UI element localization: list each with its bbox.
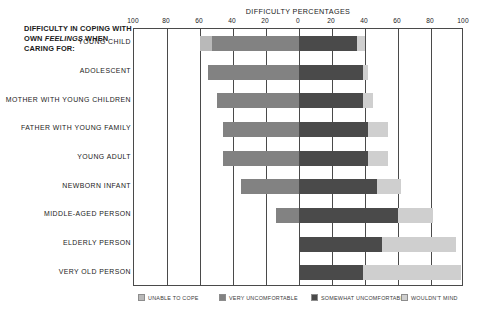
segment-somewhat-uncomfortable [299, 93, 363, 108]
segment-wouldnt-mind [363, 65, 368, 80]
x-axis-tick-2: 60 [195, 17, 203, 24]
segment-somewhat-uncomfortable [299, 179, 377, 194]
legend-swatch-icon [219, 294, 226, 301]
legend-item-2: SOMEWHAT UNCOMFORTABLE [311, 294, 408, 301]
legend-item-1: VERY UNCOMFORTABLE [219, 294, 298, 301]
bar-row [134, 179, 464, 194]
legend-label: VERY UNCOMFORTABLE [229, 295, 298, 301]
segment-very-uncomfortable [223, 151, 299, 166]
category-label-3: FATHER WITH YOUNG FAMILY [0, 124, 131, 131]
segment-wouldnt-mind [363, 93, 373, 108]
x-axis-tick-4: 20 [261, 17, 269, 24]
x-axis-tick-6: 20 [327, 17, 335, 24]
segment-very-uncomfortable [223, 122, 299, 137]
segment-somewhat-uncomfortable [299, 208, 398, 223]
bar-row [134, 237, 464, 252]
chart-x-axis-title: DIFFICULTY PERCENTAGES [133, 7, 463, 16]
legend-item-0: UNABLE TO COPE [138, 294, 199, 301]
category-label-0: YOUNG CHILD [0, 38, 131, 45]
bar-row [134, 265, 464, 280]
segment-somewhat-uncomfortable [299, 237, 382, 252]
segment-somewhat-uncomfortable [299, 36, 357, 51]
chart-container: DIFFICULTY IN COPING WITH OWN FEELINGS W… [0, 0, 483, 314]
category-label-7: ELDERLY PERSON [0, 239, 131, 246]
segment-wouldnt-mind [357, 36, 365, 51]
segment-very-uncomfortable [241, 179, 299, 194]
segment-wouldnt-mind [377, 179, 402, 194]
bar-row [134, 36, 464, 51]
x-axis-tick-0: 100 [127, 17, 139, 24]
segment-very-uncomfortable [212, 36, 299, 51]
segment-very-uncomfortable [208, 65, 299, 80]
x-axis-tick-9: 80 [426, 17, 434, 24]
category-label-2: MOTHER WITH YOUNG CHILDREN [0, 96, 131, 103]
legend-label: UNABLE TO COPE [148, 295, 199, 301]
segment-very-uncomfortable [276, 208, 299, 223]
segment-unable-to-cope [200, 36, 212, 51]
category-label-5: NEWBORN INFANT [0, 182, 131, 189]
category-label-1: ADOLESCENT [0, 67, 131, 74]
bar-row [134, 93, 464, 108]
x-axis-tick-1: 80 [162, 17, 170, 24]
x-axis-tick-labels: 10080604020020406080100 [0, 17, 483, 27]
legend-swatch-icon [311, 294, 318, 301]
segment-wouldnt-mind [382, 237, 456, 252]
x-axis-tick-8: 60 [393, 17, 401, 24]
bar-row [134, 65, 464, 80]
x-axis-tick-5: 0 [296, 17, 300, 24]
segment-very-uncomfortable [217, 93, 300, 108]
x-axis-tick-3: 40 [228, 17, 236, 24]
legend-label: WOULDN'T MIND [411, 295, 458, 301]
category-label-6: MIDDLE-AGED PERSON [0, 210, 131, 217]
category-label-4: YOUNG ADULT [0, 153, 131, 160]
segment-somewhat-uncomfortable [299, 151, 368, 166]
segment-wouldnt-mind [398, 208, 433, 223]
legend-item-3: WOULDN'T MIND [401, 294, 458, 301]
bar-row [134, 151, 464, 166]
segment-somewhat-uncomfortable [299, 65, 363, 80]
segment-somewhat-uncomfortable [299, 265, 363, 280]
segment-wouldnt-mind [368, 151, 388, 166]
legend-swatch-icon [138, 294, 145, 301]
plot-area [133, 28, 463, 286]
legend-swatch-icon [401, 294, 408, 301]
bar-row [134, 208, 464, 223]
segment-wouldnt-mind [368, 122, 388, 137]
segment-wouldnt-mind [363, 265, 460, 280]
category-label-8: VERY OLD PERSON [0, 268, 131, 275]
segment-somewhat-uncomfortable [299, 122, 368, 137]
chart-legend: UNABLE TO COPEVERY UNCOMFORTABLESOMEWHAT… [133, 292, 463, 306]
x-axis-tick-7: 40 [360, 17, 368, 24]
x-axis-tick-10: 100 [457, 17, 469, 24]
bar-row [134, 122, 464, 137]
legend-label: SOMEWHAT UNCOMFORTABLE [321, 295, 408, 301]
